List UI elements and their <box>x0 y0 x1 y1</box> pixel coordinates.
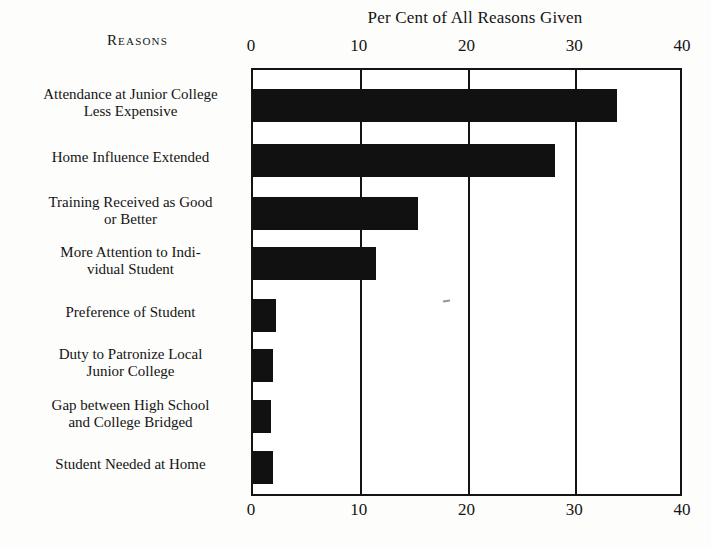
chart-title: Per Cent of All Reasons Given <box>335 8 615 28</box>
category-label-line: Gap between High School <box>52 397 210 413</box>
category-label: Student Needed at Home <box>13 456 248 473</box>
gridline <box>468 70 470 494</box>
x-tick-label: 10 <box>339 500 379 520</box>
plot-area <box>251 68 682 496</box>
gridline <box>360 70 362 494</box>
x-tick-label: 30 <box>554 36 594 56</box>
bar <box>253 247 376 280</box>
category-label-line: or Better <box>13 211 248 228</box>
scan-speck <box>443 300 450 303</box>
category-label: Duty to Patronize LocalJunior College <box>13 346 248 380</box>
category-label-line: More Attention to Indi- <box>60 244 200 260</box>
bar <box>253 144 555 177</box>
x-tick-label: 40 <box>662 36 702 56</box>
x-tick-label: 30 <box>554 500 594 520</box>
bar <box>253 197 418 230</box>
category-label-line: Home Influence Extended <box>52 149 209 165</box>
bar <box>253 299 276 332</box>
category-label-line: Junior College <box>13 363 248 380</box>
category-label: More Attention to Indi-vidual Student <box>13 244 248 278</box>
bar <box>253 451 273 484</box>
category-label: Preference of Student <box>13 304 248 321</box>
x-tick-label: 0 <box>231 500 271 520</box>
x-tick-label: 20 <box>447 36 487 56</box>
bar <box>253 400 271 433</box>
bar <box>253 89 617 122</box>
reasons-column-heading: Reasons <box>75 32 200 49</box>
category-label-line: Less Expensive <box>13 103 248 120</box>
chart-figure: Per Cent of All Reasons Given Reasons 01… <box>0 0 711 547</box>
category-label: Attendance at Junior CollegeLess Expensi… <box>13 86 248 120</box>
bar <box>253 349 273 382</box>
category-label-line: Student Needed at Home <box>55 456 205 472</box>
category-label: Training Received as Goodor Better <box>13 194 248 228</box>
category-label-line: Training Received as Good <box>48 194 212 210</box>
category-label-line: vidual Student <box>13 261 248 278</box>
category-label-line: Attendance at Junior College <box>43 86 218 102</box>
category-label-line: Preference of Student <box>66 304 196 320</box>
category-label: Gap between High Schooland College Bridg… <box>13 397 248 431</box>
category-label-line: and College Bridged <box>13 414 248 431</box>
gridline <box>575 70 577 494</box>
category-label: Home Influence Extended <box>13 149 248 166</box>
x-tick-label: 0 <box>231 36 271 56</box>
category-label-line: Duty to Patronize Local <box>59 346 203 362</box>
x-tick-label: 20 <box>447 500 487 520</box>
x-tick-label: 40 <box>662 500 702 520</box>
x-tick-label: 10 <box>339 36 379 56</box>
